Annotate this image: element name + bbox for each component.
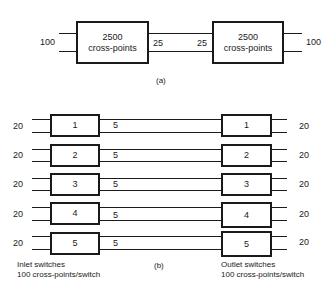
switch-number: 4 (244, 210, 249, 221)
inlet-count: 20 (13, 179, 23, 189)
input-line (32, 220, 51, 221)
caption-b: (b) (154, 261, 164, 271)
outlet-caption-title: Outlet switches (221, 260, 304, 270)
input-count-label: 100 (40, 37, 55, 47)
switch-number: 2 (244, 150, 249, 161)
outlet-count: 20 (299, 150, 309, 160)
link-count: 5 (113, 120, 118, 130)
switch-number: 3 (244, 179, 249, 190)
output-line (271, 132, 287, 133)
link-line (99, 132, 222, 133)
link-line (99, 236, 222, 237)
output-line (271, 249, 287, 250)
output-line (271, 207, 287, 208)
crosspoint-label: cross-points (224, 43, 273, 54)
switch-number: 5 (72, 238, 77, 249)
input-line (32, 161, 51, 162)
inlet-caption: Inlet switches 100 cross-points/switch (17, 260, 100, 280)
link-count: 5 (113, 179, 118, 189)
output-line (271, 178, 287, 179)
inlet-switch: 2 (50, 144, 100, 167)
output-line (271, 149, 287, 150)
output-line (271, 220, 287, 221)
inlet-switch: 4 (50, 202, 100, 225)
link-line (148, 51, 213, 52)
input-line (32, 249, 51, 250)
inlet-switch: 1 (50, 114, 100, 137)
outlet-count: 20 (299, 237, 309, 247)
inlet-count: 20 (13, 238, 23, 248)
output-line (283, 33, 302, 34)
outlet-caption-detail: 100 cross-points/switch (221, 270, 304, 280)
output-line (271, 190, 287, 191)
inlet-switch: 3 (50, 173, 100, 196)
link-count: 5 (113, 238, 118, 248)
input-line (32, 149, 51, 150)
inlet-count: 20 (13, 121, 23, 131)
inlet-count: 20 (13, 150, 23, 160)
link-line (99, 249, 222, 250)
inlet-count: 20 (13, 209, 23, 219)
switch-number: 2 (72, 150, 77, 161)
caption-a: (a) (156, 76, 166, 86)
link-count: 5 (113, 150, 118, 160)
input-line (32, 178, 51, 179)
switch-number: 3 (72, 179, 77, 190)
link-line (99, 161, 222, 162)
outlet-count: 20 (299, 121, 309, 131)
link-count: 5 (113, 210, 118, 220)
link-count-left: 25 (153, 38, 163, 48)
second-stage-switch: 2500 cross-points (212, 21, 284, 64)
output-count-label: 100 (306, 37, 321, 47)
outlet-caption: Outlet switches 100 cross-points/switch (221, 260, 304, 280)
inlet-switch: 5 (50, 232, 100, 255)
output-line (283, 51, 302, 52)
outlet-switch: 5 (221, 231, 272, 257)
switch-number: 5 (244, 239, 249, 250)
inlet-caption-detail: 100 cross-points/switch (17, 270, 100, 280)
first-stage-switch: 2500 cross-points (76, 21, 149, 64)
crosspoint-label: cross-points (88, 43, 137, 54)
input-line (32, 132, 51, 133)
link-line (99, 207, 222, 208)
link-line (99, 190, 222, 191)
crosspoint-count: 2500 (238, 32, 258, 43)
output-line (271, 236, 287, 237)
output-line (271, 161, 287, 162)
input-line (59, 33, 77, 34)
switch-number: 1 (244, 120, 249, 131)
outlet-switch: 1 (221, 114, 272, 137)
link-line (148, 33, 213, 34)
input-line (32, 190, 51, 191)
outlet-switch: 3 (221, 173, 272, 196)
output-line (271, 119, 287, 120)
input-line (32, 119, 51, 120)
outlet-switch: 4 (221, 202, 272, 228)
switch-number: 4 (72, 208, 77, 219)
inlet-caption-title: Inlet switches (17, 260, 100, 270)
link-line (99, 220, 222, 221)
outlet-switch: 2 (221, 144, 272, 167)
input-line (32, 207, 51, 208)
link-count-right: 25 (197, 38, 207, 48)
outlet-count: 20 (299, 209, 309, 219)
input-line (59, 51, 77, 52)
crosspoint-count: 2500 (102, 32, 122, 43)
switch-number: 1 (72, 120, 77, 131)
outlet-count: 20 (299, 179, 309, 189)
input-line (32, 236, 51, 237)
